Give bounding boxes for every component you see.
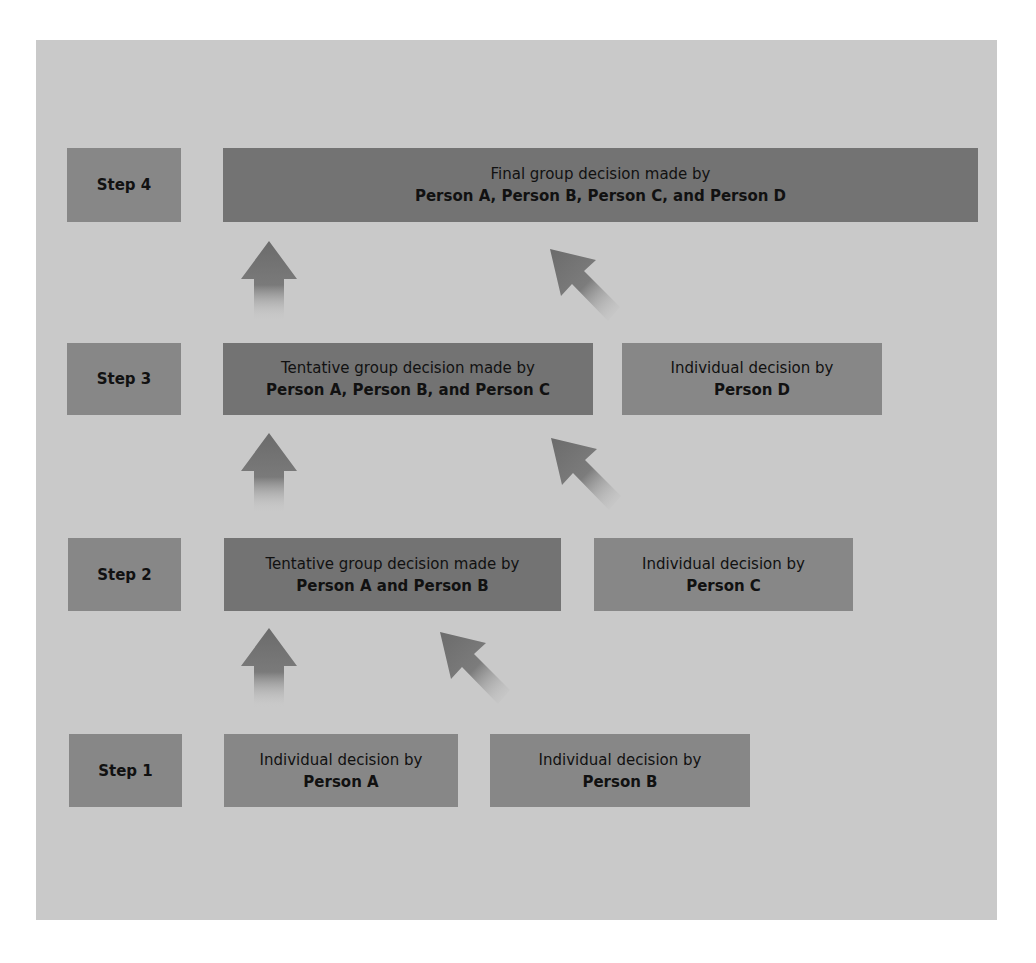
diagonal-arrow-icon	[550, 249, 620, 321]
diagonal-arrow-icon	[551, 438, 621, 510]
box-text: Individual decision by	[260, 749, 423, 771]
box-participants: Person A	[303, 771, 378, 793]
box-text: Individual decision by	[671, 357, 834, 379]
arrows-layer	[0, 0, 1036, 963]
step-2-label: Step 2	[68, 538, 181, 611]
individual-decision-d-box: Individual decision by Person D	[622, 343, 882, 415]
box-participants: Person B	[582, 771, 657, 793]
individual-decision-c-box: Individual decision by Person C	[594, 538, 853, 611]
individual-decision-b-box: Individual decision by Person B	[490, 734, 750, 807]
step-3-label: Step 3	[67, 343, 181, 415]
final-group-decision-box: Final group decision made by Person A, P…	[223, 148, 978, 222]
box-participants: Person D	[714, 379, 790, 401]
box-text: Individual decision by	[642, 553, 805, 575]
individual-decision-a-box: Individual decision by Person A	[224, 734, 458, 807]
box-text: Tentative group decision made by	[266, 553, 520, 575]
box-participants: Person A and Person B	[296, 575, 488, 597]
step-4-label: Step 4	[67, 148, 181, 222]
up-arrow-icon	[241, 433, 297, 513]
tentative-group-decision-abc-box: Tentative group decision made by Person …	[223, 343, 593, 415]
box-participants: Person A, Person B, and Person C	[266, 379, 550, 401]
tentative-group-decision-ab-box: Tentative group decision made by Person …	[224, 538, 561, 611]
up-arrow-icon	[241, 628, 297, 708]
diagonal-arrow-icon	[440, 632, 510, 704]
up-arrow-icon	[241, 241, 297, 321]
box-participants: Person A, Person B, Person C, and Person…	[415, 185, 786, 207]
step-1-label: Step 1	[69, 734, 182, 807]
box-text: Individual decision by	[539, 749, 702, 771]
box-participants: Person C	[686, 575, 761, 597]
box-text: Final group decision made by	[491, 163, 711, 185]
box-text: Tentative group decision made by	[281, 357, 535, 379]
